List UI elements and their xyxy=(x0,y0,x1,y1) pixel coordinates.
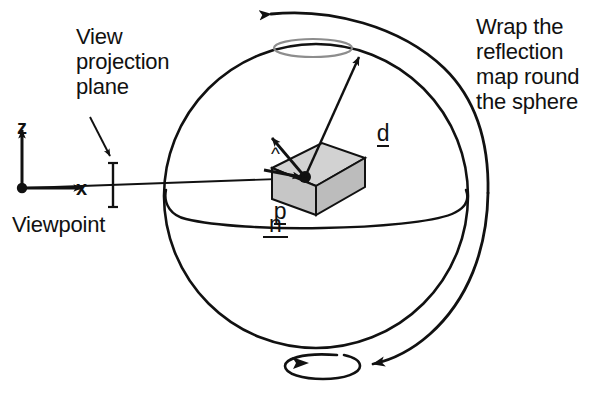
axis-z-label: z xyxy=(17,116,27,139)
direction-vector-label: d xyxy=(352,94,389,173)
normal-hat-accent: ^ xyxy=(263,148,288,160)
viewpoint-label: Viewpoint xyxy=(12,212,105,237)
position-symbol: p xyxy=(274,200,287,225)
bottom-cap-arrowhead xyxy=(292,357,309,369)
axis-x-label: x xyxy=(76,177,87,200)
reflection-map-diagram: View projection plane Viewpoint Wrap the… xyxy=(0,0,602,395)
viewpoint-dot xyxy=(17,183,27,193)
position-vector-label: p xyxy=(249,172,286,251)
wrap-reflection-map-note: Wrap the reflection map round the sphere xyxy=(476,14,579,114)
projection-plane-leader xyxy=(90,117,110,156)
direction-symbol: d xyxy=(377,122,390,147)
view-projection-plane-label: View projection plane xyxy=(76,24,169,99)
